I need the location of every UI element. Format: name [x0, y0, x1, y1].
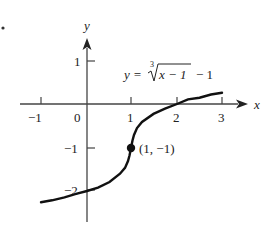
x-tick-label: 1 — [127, 110, 134, 125]
x-tick-label: 3 — [218, 110, 225, 125]
y-tick-label: 1 — [74, 54, 81, 69]
x-axis-label: x — [253, 97, 260, 112]
y-tick-label: −1 — [64, 141, 78, 156]
y-axis-label: y — [82, 18, 90, 33]
function-graph: x y −1 0 1 2 3 1 −1 −2 y = 3 x − 1 − 1 (… — [0, 0, 271, 228]
x-tick-label: 2 — [173, 110, 180, 125]
root-index: 3 — [150, 60, 154, 69]
equation-lhs: y = — [122, 67, 142, 82]
equation-radicand: x − 1 — [158, 67, 187, 82]
point-marker — [127, 144, 135, 152]
bullet-dot — [1, 26, 4, 29]
x-tick-label: 0 — [74, 110, 81, 125]
equation-tail: − 1 — [196, 67, 213, 82]
x-tick-label: −1 — [28, 110, 42, 125]
equation-label: y = 3 x − 1 − 1 — [122, 60, 213, 82]
y-ticks — [87, 61, 95, 190]
point-label: (1, −1) — [139, 141, 175, 156]
